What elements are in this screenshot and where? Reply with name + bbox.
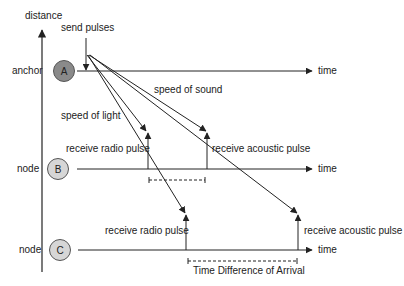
node-c-role-label: node	[19, 244, 41, 256]
node-b-role-label: node	[17, 163, 39, 175]
b-tdoa-bracket	[149, 177, 205, 183]
node-c-circle: C	[49, 239, 71, 261]
b-receive-radio-label: receive radio pulse	[66, 143, 150, 155]
anchor-role-label: anchor	[12, 65, 43, 77]
anchor-a-time-label: time	[318, 65, 337, 77]
node-c-time-label: time	[318, 244, 337, 256]
send-pulses-label: send pulses	[61, 22, 114, 34]
node-b-circle: B	[47, 158, 69, 180]
b-receive-acoustic-label: receive acoustic pulse	[212, 143, 310, 155]
node-c-id: C	[56, 245, 63, 256]
tdoa-label: Time Difference of Arrival	[193, 265, 305, 277]
radio-pulse-to-c	[88, 55, 185, 213]
speed-of-light-label: speed of light	[61, 110, 121, 122]
distance-axis-label: distance	[25, 10, 62, 22]
anchor-a-circle: A	[53, 60, 75, 82]
speed-of-sound-label: speed of sound	[154, 84, 222, 96]
node-b-id: B	[55, 164, 62, 175]
c-receive-acoustic-label: receive acoustic pulse	[304, 225, 402, 237]
c-tdoa-bracket	[188, 258, 297, 264]
acoustic-pulse-to-c	[90, 55, 297, 213]
node-b-time-label: time	[318, 163, 337, 175]
c-receive-radio-label: receive radio pulse	[105, 225, 189, 237]
anchor-a-id: A	[61, 66, 68, 77]
